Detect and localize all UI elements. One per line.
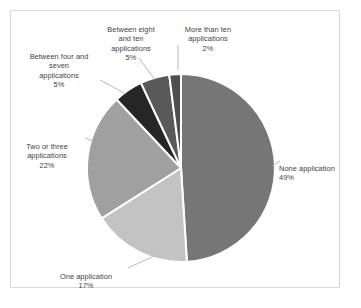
pie-label-between-eight-and-ten-applications-name: Between eight and ten applications xyxy=(107,25,155,52)
leader-line-four-seven-applications xyxy=(100,80,126,94)
pie-label-more-than-ten-applications: More than ten applications 2% xyxy=(172,16,244,62)
pie-label-none-application-value: 49% xyxy=(279,173,357,182)
pie-label-between-eight-and-ten-applications: Between eight and ten applications 5% xyxy=(97,16,165,71)
leader-line-one-application xyxy=(128,256,154,268)
pie-label-none-application: None application 49% xyxy=(279,155,357,192)
pie-label-more-than-ten-applications-name: More than ten applications xyxy=(185,25,231,43)
pie-label-between-four-and-seven-applications-value: 5% xyxy=(18,80,100,89)
pie-label-between-four-and-seven-applications-name: Between four and seven applications xyxy=(30,52,89,79)
pie-label-between-eight-and-ten-applications-value: 5% xyxy=(97,53,165,62)
pie-label-two-or-three-applications-name: Two or three applications xyxy=(26,142,68,160)
pie-label-one-application-value: 17% xyxy=(46,281,126,290)
pie-slice-none-application[interactable] xyxy=(181,74,275,262)
pie-slices xyxy=(87,74,275,262)
pie-label-two-or-three-applications: Two or three applications 22% xyxy=(8,133,86,179)
pie-label-none-application-name: None application xyxy=(279,164,335,173)
pie-label-more-than-ten-applications-value: 2% xyxy=(172,44,244,53)
pie-label-one-application: One application 17% xyxy=(46,263,126,300)
pie-label-two-or-three-applications-value: 22% xyxy=(8,161,86,170)
pie-label-one-application-name: One application xyxy=(60,272,112,281)
pie-label-between-four-and-seven-applications: Between four and seven applications 5% xyxy=(18,43,100,98)
